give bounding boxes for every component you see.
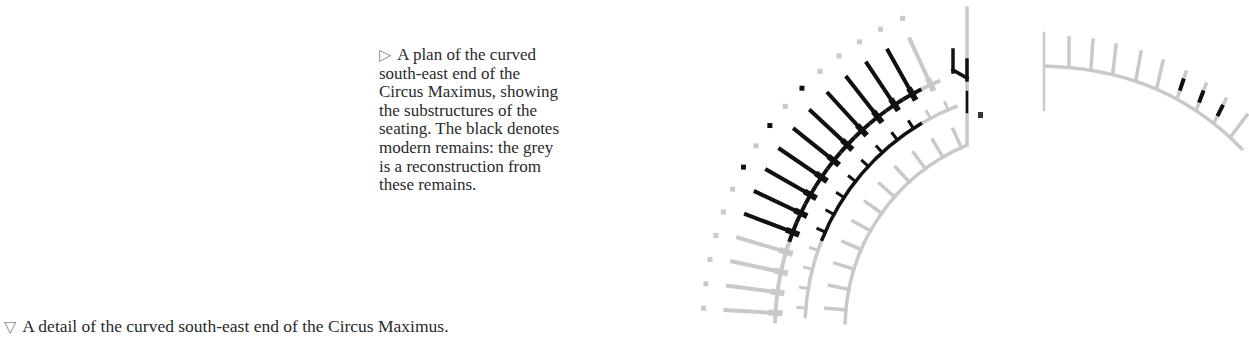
detail-plan-drawing bbox=[1044, 33, 1247, 150]
circus-maximus-plan-figure bbox=[0, 0, 1249, 348]
main-plan-drawing bbox=[701, 8, 983, 325]
